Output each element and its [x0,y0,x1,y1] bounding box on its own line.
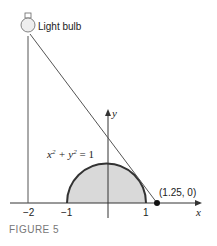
light-bulb-icon [21,13,35,32]
figure-caption: FIGURE 5 [9,224,59,235]
svg-text:x2 + y2 = 1: x2 + y2 = 1 [46,148,94,160]
y-axis-label: y [111,107,117,119]
point-marker [154,200,160,206]
circle-equation: x2 + y2 = 1 [46,148,94,160]
diagram: Light bulb (1.25, 0) x y −2 −1 1 x2 + y2… [0,0,217,246]
tick-label-neg2: −2 [23,207,35,218]
x-axis-label: x [195,206,201,218]
semicircle-region [67,164,146,203]
point-label: (1.25, 0) [159,187,196,198]
tick-label-neg1: −1 [61,207,73,218]
tick-label-1: 1 [143,207,149,218]
light-bulb-label: Light bulb [38,21,82,32]
y-axis-arrow [105,109,111,116]
